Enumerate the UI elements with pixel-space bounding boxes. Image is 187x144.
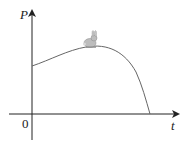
origin-label: 0 [22,116,29,131]
x-axis-label: t [171,118,175,133]
y-axis-label: P [19,7,28,22]
population-curve [32,46,150,114]
population-graph: P 0 t [0,0,187,144]
rabbit-icon [83,31,97,48]
